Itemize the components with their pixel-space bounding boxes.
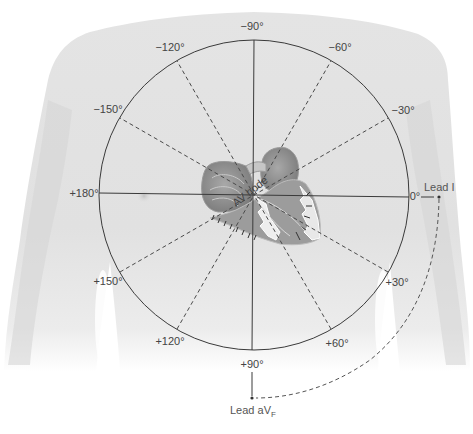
label-minus30: −30° — [391, 104, 414, 116]
label-plus30: +30° — [385, 276, 408, 288]
hexaxial-diagram: −90° −60° −30° 0° +30° +60° +90° +120° +… — [0, 0, 473, 434]
label-minus120: −120° — [155, 41, 184, 53]
lead-avf-main: Lead aV — [230, 404, 272, 416]
label-plus120: +120° — [155, 335, 184, 347]
label-plus150: +150° — [93, 275, 122, 287]
lead-avf-subscript: F — [271, 410, 276, 419]
label-minus90: −90° — [240, 20, 263, 32]
label-0: 0° — [410, 190, 421, 202]
label-plus60: +60° — [325, 337, 348, 349]
lead-avf-label: Lead aVF — [230, 404, 276, 419]
lead-avf-dot — [250, 396, 253, 399]
diagram-canvas: −90° −60° −30° 0° +30° +60° +90° +120° +… — [0, 0, 473, 434]
label-minus150: −150° — [93, 103, 122, 115]
label-plus180: +180° — [69, 187, 98, 199]
lead-i-dot — [437, 195, 440, 198]
lead-i-label: Lead I — [424, 181, 455, 193]
nipple-left — [136, 189, 152, 203]
label-plus90: +90° — [240, 358, 263, 370]
label-minus60: −60° — [328, 41, 351, 53]
